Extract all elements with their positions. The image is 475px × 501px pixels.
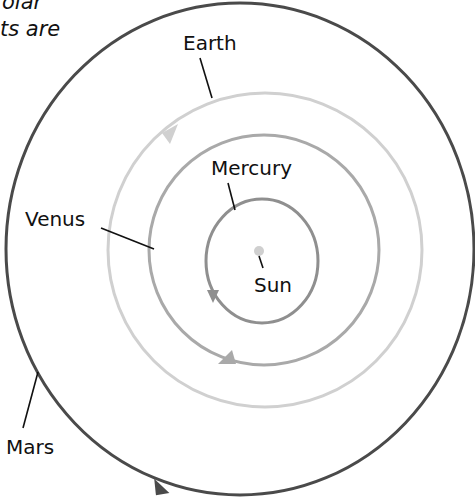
- label-venus: Venus: [25, 207, 85, 231]
- sun-dot: [254, 246, 264, 256]
- solar-system-diagram: Earth Mercury Venus Sun Mars: [0, 0, 475, 501]
- earth-direction-arrow-icon: [162, 124, 178, 144]
- orbit-mars: [6, 3, 474, 497]
- label-mars: Mars: [6, 435, 54, 459]
- orbit-earth: [108, 93, 422, 407]
- earth-leader-line: [200, 58, 212, 98]
- label-earth: Earth: [183, 31, 237, 55]
- orbit-mercury: [206, 199, 318, 323]
- sun-leader-line: [259, 256, 263, 268]
- mercury-leader-line: [228, 183, 235, 210]
- label-mercury: Mercury: [211, 156, 292, 180]
- label-sun: Sun: [254, 273, 292, 297]
- mars-leader-line: [23, 372, 38, 428]
